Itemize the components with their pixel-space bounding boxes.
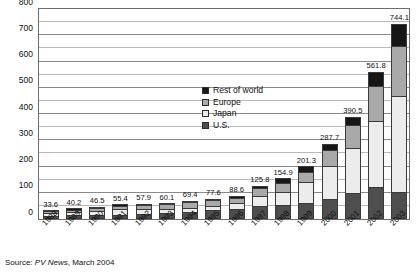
source-note: Source: PV News, March 2004 [5, 258, 114, 267]
chart-container: 33.640.246.555.457.960.169.477.688.6125.… [0, 0, 417, 275]
source-publication: PV News [35, 258, 68, 267]
x-axis-labels: 1988198919901991199219931994199519961997… [0, 220, 417, 254]
y-axis-tick-label: 0 [0, 208, 33, 217]
source-prefix: Source: [5, 258, 35, 267]
y-axis-tick-label: 200 [0, 155, 33, 164]
y-axis-tick-label: 700 [0, 24, 33, 33]
y-axis-tick-label: 300 [0, 129, 33, 138]
y-axis-tick-label: 100 [0, 181, 33, 190]
y-axis-tick-label: 600 [0, 50, 33, 59]
source-suffix: , March 2004 [68, 258, 115, 267]
y-axis-tick-label: 400 [0, 103, 33, 112]
y-axis-labels: 0100200300400500600700800 [0, 8, 417, 220]
y-axis-tick-label: 800 [0, 0, 33, 6]
y-axis-tick-label: 500 [0, 76, 33, 85]
